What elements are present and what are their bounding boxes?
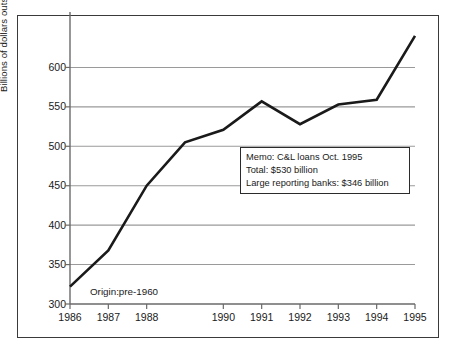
origin-annotation: Origin:pre-1960 — [88, 286, 160, 297]
y-tick-label: 400 — [32, 220, 66, 231]
chart-figure: Billions of dollars outstanding 30035040… — [0, 0, 455, 349]
y-tick-label: 600 — [32, 62, 66, 73]
y-tick-label: 550 — [32, 101, 66, 112]
y-axis-tick-labels: 300350400450500550600 — [26, 28, 66, 304]
y-tick-label: 450 — [32, 180, 66, 191]
y-axis-title: Billions of dollars outstanding — [0, 0, 9, 92]
y-tick-label: 500 — [32, 141, 66, 152]
memo-annotation-box: Memo: C&L loans Oct. 1995 Total: $530 bi… — [240, 147, 410, 194]
memo-line-3: Large reporting banks: $346 billion — [246, 177, 404, 190]
y-tick-label: 350 — [32, 259, 66, 270]
memo-line-1: Memo: C&L loans Oct. 1995 — [246, 151, 404, 164]
y-tick-label: 300 — [32, 299, 66, 310]
x-axis-tick-labels: 198619871988199019911992199319941995 — [70, 312, 415, 328]
memo-line-2: Total: $530 billion — [246, 164, 404, 177]
x-tick-label: 1995 — [393, 312, 437, 323]
x-tick-label: 1988 — [125, 312, 169, 323]
